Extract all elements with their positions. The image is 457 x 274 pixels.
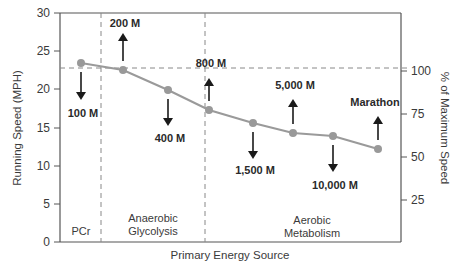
y2tick-100: 100 — [411, 64, 431, 78]
ytick-20: 20 — [37, 82, 51, 96]
point-labels: 100 M 200 M 400 M 800 M 1,500 M 5,000 M … — [68, 17, 400, 191]
label-800m: 800 M — [196, 57, 227, 69]
ytick-0: 0 — [43, 235, 50, 249]
ytick-30: 30 — [37, 6, 51, 20]
ytick-5: 5 — [43, 197, 50, 211]
region-aerobic-line1: Aerobic — [293, 214, 331, 226]
label-200m: 200 M — [110, 17, 141, 29]
region-aerobic-line2: Metabolism — [284, 227, 340, 239]
point-400m — [164, 86, 172, 94]
label-10000m: 10,000 M — [312, 179, 358, 191]
label-400m: 400 M — [155, 132, 186, 144]
y2-axis-title: % of Maximum Speed — [439, 72, 451, 185]
point-marathon — [374, 145, 382, 153]
point-100m — [77, 59, 85, 67]
plot-frame — [60, 13, 401, 242]
ytick-10: 10 — [37, 159, 51, 173]
point-10000m — [329, 132, 337, 140]
point-800m — [205, 106, 213, 114]
region-pcr: PCr — [72, 225, 91, 237]
y-axis-right: 100 75 50 25 % of Maximum Speed — [401, 64, 451, 207]
x-axis-title: Primary Energy Source — [171, 249, 290, 261]
label-100m: 100 M — [68, 107, 99, 119]
label-1500m: 1,500 M — [235, 164, 275, 176]
region-anaerobic-line1: Anaerobic — [128, 212, 178, 224]
y-axis-left: 30 25 20 15 10 5 0 Running Speed (MPH) — [11, 6, 60, 249]
point-1500m — [249, 119, 257, 127]
point-5000m — [289, 129, 297, 137]
y2tick-75: 75 — [411, 107, 425, 121]
reference-lines — [60, 13, 407, 242]
y2tick-25: 25 — [411, 193, 425, 207]
y-axis-title: Running Speed (MPH) — [11, 70, 23, 186]
region-anaerobic-line2: Glycolysis — [128, 225, 178, 237]
ytick-25: 25 — [37, 44, 51, 58]
data-points — [77, 59, 382, 153]
label-5000m: 5,000 M — [275, 79, 315, 91]
arrows — [81, 37, 378, 168]
ytick-15: 15 — [37, 121, 51, 135]
point-200m — [119, 66, 127, 74]
region-labels: PCr Anaerobic Glycolysis Aerobic Metabol… — [72, 212, 341, 239]
label-marathon: Marathon — [350, 96, 400, 108]
y2tick-50: 50 — [411, 150, 425, 164]
chart: 30 25 20 15 10 5 0 Running Speed (MPH) 1… — [0, 0, 457, 274]
